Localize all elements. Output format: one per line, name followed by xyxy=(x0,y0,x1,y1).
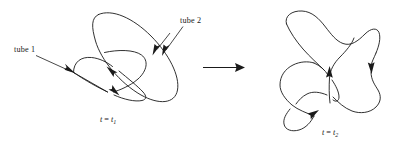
tube-1-path-a xyxy=(74,57,113,72)
right-time-subscript: 2 xyxy=(335,132,338,138)
reconnected-path-hook xyxy=(287,24,325,70)
reconnected-path-inner-left xyxy=(314,63,328,75)
left-time-subscript: 1 xyxy=(113,119,116,125)
right-time-label: t = t2 xyxy=(322,128,338,138)
right-panel: t = t2 xyxy=(280,11,380,138)
vortex-reconnection-diagram: t = t1 tube 1 tube 2 xyxy=(0,0,400,147)
left-panel: t = t1 tube 1 tube 2 xyxy=(14,13,201,125)
flow-arrowhead-icon xyxy=(107,67,118,78)
right-time-eq: = xyxy=(324,128,333,137)
reconnected-path-inner-right xyxy=(332,80,339,101)
left-time-eq: = xyxy=(102,115,111,124)
left-flow-arrow-1 xyxy=(107,67,118,78)
reconnected-path-bottom-left xyxy=(284,109,314,131)
tube-1-path-c xyxy=(74,73,108,93)
tube-2-pointer-secondary xyxy=(153,33,171,56)
tube-2-pointer xyxy=(162,27,183,57)
pointer-arrow-icon xyxy=(153,44,161,56)
tube-1-pointer-line xyxy=(36,56,69,71)
left-time-label: t = t1 xyxy=(100,115,116,125)
reconnected-path-vertical xyxy=(329,38,354,103)
reconnected-path-left xyxy=(280,62,314,116)
tube-1-label: tube 1 xyxy=(14,45,35,54)
tube-1-curve xyxy=(74,57,146,101)
reconnected-path-top xyxy=(286,11,380,53)
right-arrow-icon xyxy=(235,63,245,72)
tube-2-label: tube 2 xyxy=(180,16,201,25)
reconnected-path-right-lower xyxy=(333,72,380,113)
figure-root: t = t1 tube 1 tube 2 xyxy=(0,0,400,147)
tube-2-curve xyxy=(93,13,178,102)
tube-2-path xyxy=(93,13,178,102)
tube-1-pointer xyxy=(36,56,76,74)
transition-arrow xyxy=(203,63,245,72)
reconnected-path-bottom xyxy=(296,92,327,104)
